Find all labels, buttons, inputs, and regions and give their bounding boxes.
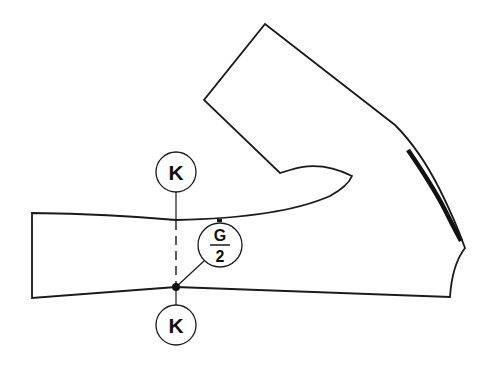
- bottom-k-label: K: [168, 314, 183, 337]
- pattern-outline: [32, 24, 465, 298]
- pattern-diagram: K G 2 K: [0, 0, 498, 378]
- top-k-label: K: [168, 161, 183, 184]
- thick-edge-segment: [408, 150, 461, 241]
- g-half-denominator: 2: [216, 248, 225, 265]
- g-half-marker: G 2: [198, 223, 242, 267]
- g-half-numerator: G: [214, 227, 226, 244]
- g2-leader: [176, 261, 204, 287]
- top-k-marker: K: [156, 152, 196, 192]
- bottom-k-marker: K: [156, 305, 196, 345]
- intersection-dot: [172, 283, 180, 291]
- g2-contact-mark: [217, 219, 222, 222]
